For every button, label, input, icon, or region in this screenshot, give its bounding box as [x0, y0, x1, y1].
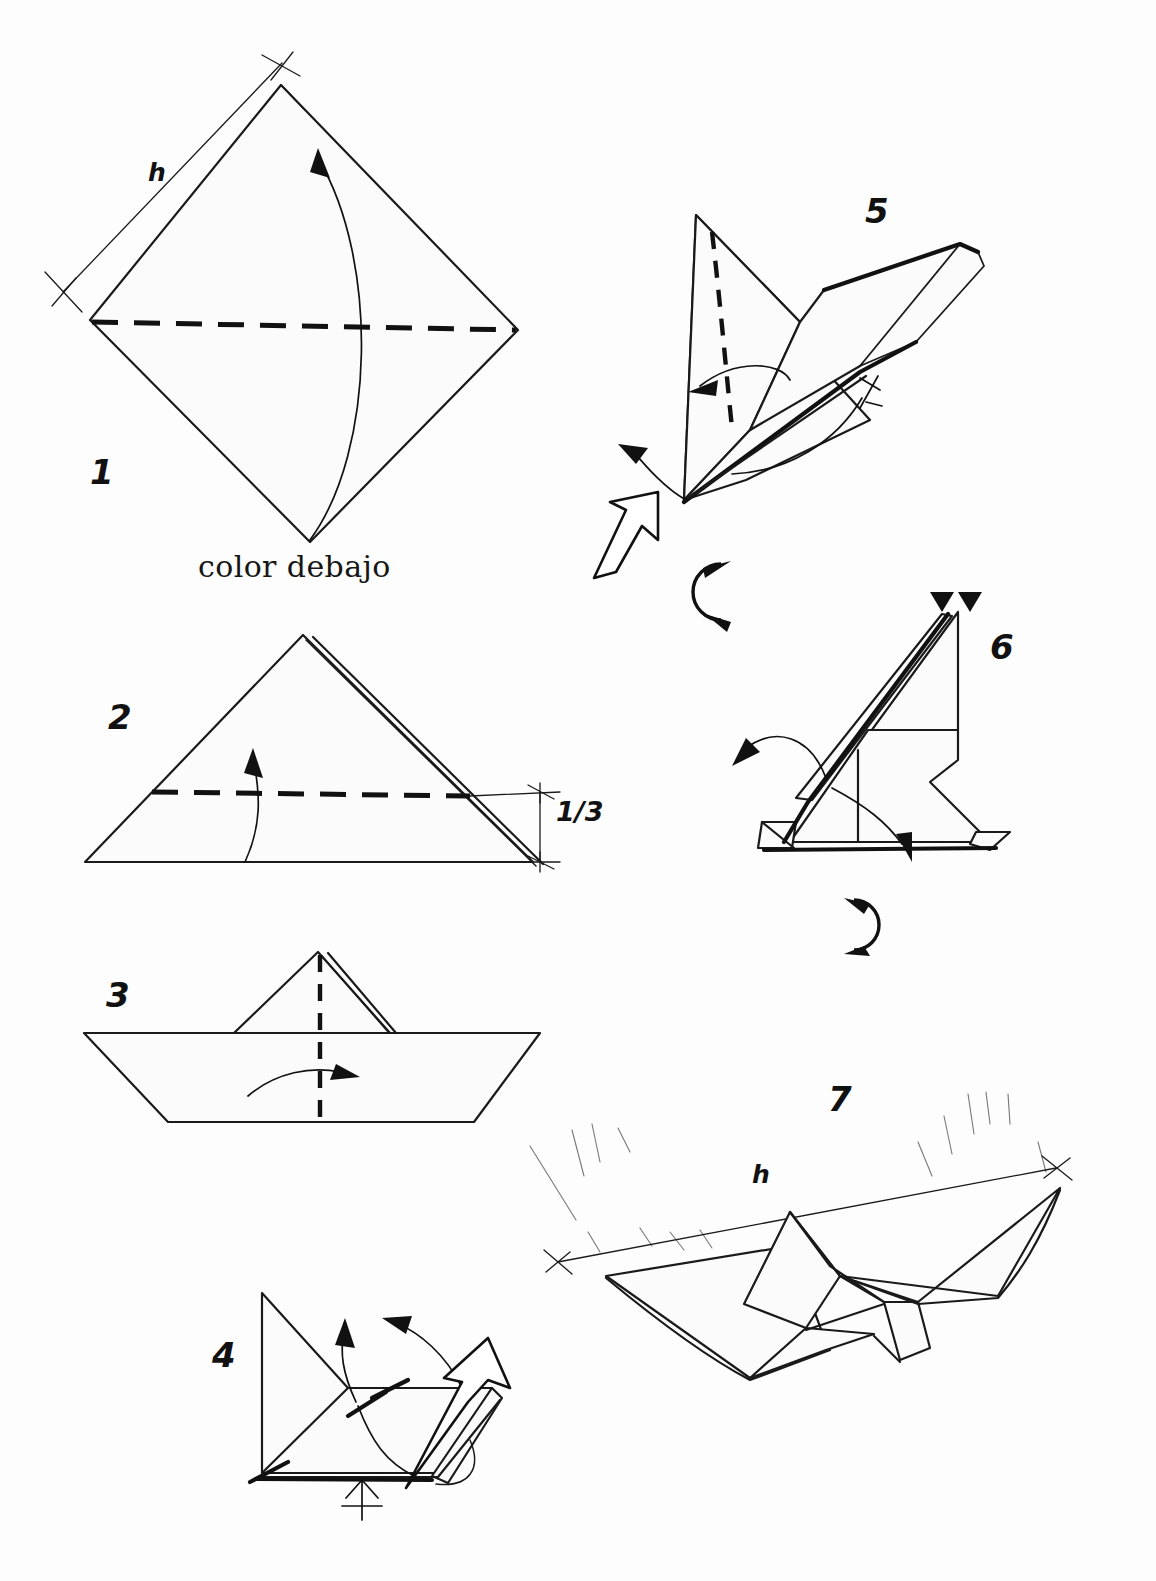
step-number-5: 5 — [865, 194, 889, 228]
step-number-6: 6 — [990, 630, 1014, 664]
measure-cross-tick-top — [262, 52, 300, 80]
origami-diagram-page: 1 h color debajo — [0, 0, 1156, 1581]
measure-cross-tick-right — [1042, 1156, 1072, 1180]
measure-cross-tick-left — [544, 1250, 572, 1274]
dimension-label-h: h — [752, 1162, 770, 1187]
step-number-1: 1 — [90, 455, 114, 489]
bottom-thick-edge — [256, 1479, 432, 1480]
sketch-hatching-right — [918, 1092, 1046, 1176]
rotate-arrow-head — [382, 1316, 412, 1334]
hidden-layer-cross-icon — [342, 1480, 382, 1520]
boat-hull-shape — [84, 1033, 540, 1122]
rotate-symbol-2 — [820, 890, 900, 970]
step-2-drawing — [0, 600, 620, 920]
base-edge — [764, 848, 996, 850]
left-pull-arrow-head — [618, 444, 648, 464]
step-1-caption: color debajo — [198, 552, 391, 582]
triangle-shape — [85, 635, 533, 862]
step-1-drawing — [0, 0, 600, 600]
dimension-label-one-third: 1/3 — [556, 798, 603, 825]
measure-cross-tick-left — [45, 272, 82, 312]
step-number-2: 2 — [108, 700, 132, 734]
right-body-panel-shape — [884, 1302, 930, 1360]
square-diamond-shape — [90, 85, 518, 542]
measure-cross-tick-wing — [860, 376, 882, 408]
boat-peak-shape — [234, 952, 390, 1033]
left-fold-arrow-path — [746, 737, 826, 778]
open-arrow-head — [335, 1318, 355, 1348]
step-number-4: 4 — [212, 1338, 236, 1372]
step-number-7: 7 — [828, 1082, 852, 1116]
open-out-arrow — [594, 492, 658, 578]
v-arrowheads-icon — [930, 592, 982, 612]
right-wing-shape — [840, 1188, 1060, 1302]
sketch-hatching-left — [530, 1124, 712, 1252]
step-6-drawing — [680, 570, 1060, 910]
dimension-label-h: h — [148, 160, 166, 185]
step-number-3: 3 — [106, 978, 130, 1012]
step-7-drawing — [500, 1080, 1140, 1420]
step-5-drawing — [560, 180, 1120, 600]
